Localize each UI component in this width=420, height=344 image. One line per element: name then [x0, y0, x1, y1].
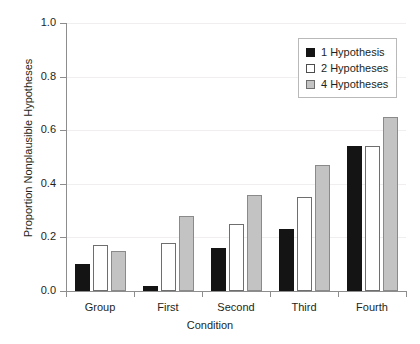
legend-item: 4 Hypotheses	[306, 76, 388, 92]
bar	[315, 165, 330, 291]
x-axis-tick	[202, 292, 203, 297]
y-axis-tick-label: 0.8	[41, 71, 56, 82]
x-axis-tick	[338, 292, 339, 297]
bar	[365, 146, 380, 291]
legend-label: 1 Hypothesis	[321, 47, 385, 58]
bar	[297, 197, 312, 291]
bar	[247, 195, 262, 291]
bar	[279, 229, 294, 291]
legend-item: 1 Hypothesis	[306, 44, 388, 60]
bar	[161, 243, 176, 291]
bar-chart: Proportion Nonplausible Hypotheses 0.00.…	[0, 0, 420, 344]
bar	[93, 245, 108, 291]
bar	[143, 286, 158, 291]
y-axis-tick-label: 0.4	[41, 178, 56, 189]
legend: 1 Hypothesis 2 Hypotheses 4 Hypotheses	[298, 38, 397, 98]
bar	[75, 264, 90, 291]
y-axis-tick-label: 0.2	[41, 231, 56, 242]
y-axis-title: Proportion Nonplausible Hypotheses	[22, 23, 34, 273]
bar	[211, 248, 226, 291]
x-axis-title: Condition	[0, 319, 420, 331]
bar	[111, 251, 126, 291]
x-axis-tick	[134, 292, 135, 297]
y-axis-tick-label: 0.6	[41, 124, 56, 135]
legend-label: 4 Hypotheses	[321, 79, 388, 90]
bar	[229, 224, 244, 291]
legend-item: 2 Hypotheses	[306, 60, 388, 76]
bar	[383, 117, 398, 291]
legend-swatch-icon	[306, 64, 315, 73]
legend-swatch-icon	[306, 80, 315, 89]
x-axis-tick	[406, 292, 407, 297]
y-axis-tick-label: 1.0	[41, 17, 56, 28]
y-axis-tick-label: 0.0	[41, 285, 56, 296]
x-axis-tick-label: Fourth	[332, 301, 412, 313]
x-axis-line	[66, 291, 407, 292]
legend-label: 2 Hypotheses	[321, 63, 388, 74]
x-axis-tick	[66, 292, 67, 297]
bar	[179, 216, 194, 291]
x-axis-tick	[270, 292, 271, 297]
legend-swatch-icon	[306, 48, 315, 57]
bar	[347, 146, 362, 291]
